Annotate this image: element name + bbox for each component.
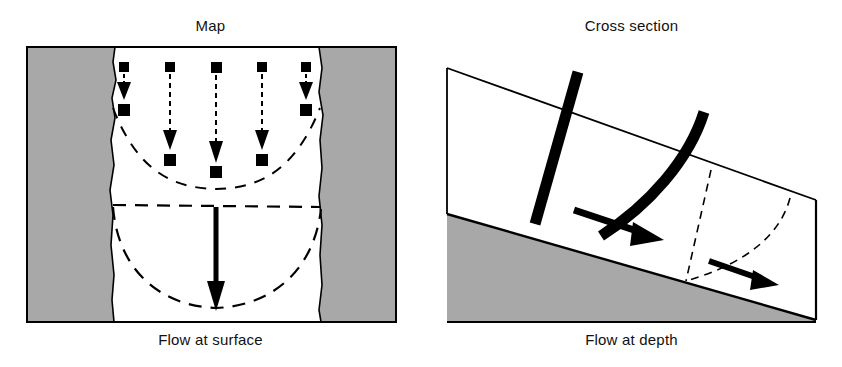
stake-marker-final (118, 104, 130, 116)
cross-section-diagram (421, 0, 842, 367)
stake-marker-final (210, 166, 222, 178)
stake-marker-initial (211, 62, 222, 73)
stake-marker-initial (257, 62, 267, 72)
map-diagram (0, 0, 421, 367)
map-caption: Flow at surface (0, 331, 421, 348)
stake-marker-final (300, 104, 312, 116)
panel-cross-section: Cross section (421, 0, 842, 367)
rock-wall-left (27, 47, 116, 322)
glacier-flow-figure: Map (0, 0, 842, 367)
stake-marker-initial (119, 62, 129, 72)
stake-marker-final (164, 154, 176, 166)
stake-marker-initial (301, 62, 311, 72)
cross-section-caption: Flow at depth (421, 331, 842, 348)
stake-marker-initial (165, 62, 175, 72)
stake-marker-final (256, 154, 268, 166)
panel-map: Map (0, 0, 421, 367)
rock-wall-right (319, 47, 396, 322)
